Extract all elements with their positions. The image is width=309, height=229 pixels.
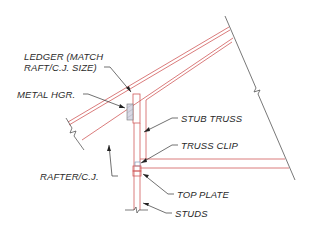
metal-hanger-arrowhead [119,104,125,108]
roof-boundary-line [225,16,295,180]
truss-clip-label: TRUSS CLIP [181,140,238,151]
top-plate-arrowhead [143,174,149,178]
ledger-label-line2: RAFT/C.J. SIZE) [24,62,97,73]
top-plate-label: TOP PLATE [177,189,229,200]
framing-detail-diagram [0,0,309,229]
studs-label: STUDS [175,208,208,219]
studs-break-line [125,207,148,213]
studs-arrowhead [143,203,149,206]
stub-truss [134,42,232,210]
metal-hanger-label: METAL HGR. [17,89,75,100]
truss-bottom-chord [140,159,289,168]
ledger-label-line1: LEDGER (MATCH [24,51,103,62]
stub-truss-arrowhead [144,127,150,132]
metal-hanger [127,104,133,120]
truss-clip [135,162,140,166]
stub-truss-label: STUB TRUSS [181,113,242,124]
rafter-arrowhead [107,145,111,151]
rafter-break-line [66,118,84,150]
rafter-cj-label: RAFTER/C.J. [40,171,99,182]
ledger [133,94,140,123]
